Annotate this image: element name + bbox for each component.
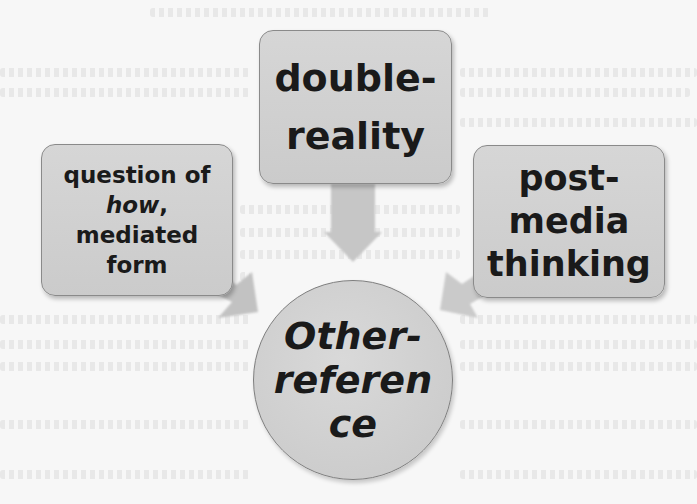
node-other-reference: Other- referen ce — [253, 280, 453, 480]
node-label-line: mediated — [76, 220, 199, 250]
comma: , — [159, 192, 168, 218]
node-label-line: referen — [274, 358, 432, 402]
node-question-of-how: question of how, mediated form — [41, 144, 233, 296]
node-label-line: form — [106, 250, 167, 280]
node-double-reality: double- reality — [259, 30, 452, 184]
node-label-line: double- — [274, 49, 436, 107]
arrow-down-icon — [324, 184, 382, 262]
node-label-line-emphasis: how, — [106, 190, 168, 220]
node-label-line: ce — [329, 402, 377, 446]
emphasis-word: how — [106, 192, 159, 218]
node-label-line: reality — [286, 107, 425, 165]
node-label-line: question of — [64, 160, 211, 190]
node-post-media-thinking: post- media thinking — [473, 145, 665, 298]
node-label-line: thinking — [487, 243, 651, 286]
node-label-line: Other- — [284, 314, 422, 358]
node-label-line: post- — [518, 157, 619, 200]
node-label-line: media — [509, 200, 630, 243]
